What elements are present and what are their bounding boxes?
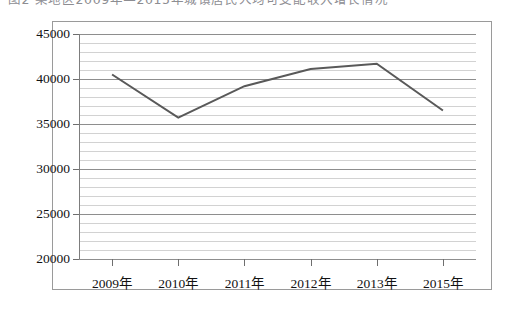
x-axis-label: 2013年 bbox=[357, 272, 397, 292]
figure-caption-text: 图2 某地区2009年—2015年城镇居民人均可支配收入增长情况 bbox=[8, 0, 388, 8]
x-axis-tick bbox=[244, 259, 245, 266]
x-axis-label: 2011年 bbox=[225, 272, 265, 292]
x-axis-tick bbox=[377, 259, 378, 266]
x-axis-tick bbox=[178, 259, 179, 266]
cropped-caption-strip: 图2 某地区2009年—2015年城镇居民人均可支配收入增长情况 bbox=[0, 0, 508, 12]
y-axis-label: 45000 bbox=[36, 26, 70, 42]
x-axis-label: 2012年 bbox=[291, 272, 331, 292]
x-axis-label: 2015年 bbox=[423, 272, 463, 292]
x-axis-tick bbox=[112, 259, 113, 266]
y-axis-label: 30000 bbox=[36, 161, 70, 177]
x-axis-label: 2010年 bbox=[158, 272, 198, 292]
y-axis-tick bbox=[73, 259, 79, 260]
gridline-major bbox=[79, 259, 476, 260]
y-axis-label: 20000 bbox=[36, 251, 70, 267]
data-series-line bbox=[112, 64, 443, 118]
x-axis-tick bbox=[443, 259, 444, 266]
y-axis-label: 25000 bbox=[36, 206, 70, 222]
y-axis-label: 35000 bbox=[36, 116, 70, 132]
x-axis-tick bbox=[311, 259, 312, 266]
series-line-chart bbox=[79, 34, 476, 259]
x-axis-label: 2009年 bbox=[92, 272, 132, 292]
y-axis-label: 40000 bbox=[36, 71, 70, 87]
chart-frame: 200002500030000350004000045000 2009年2010… bbox=[52, 21, 492, 290]
plot-area: 200002500030000350004000045000 2009年2010… bbox=[79, 34, 476, 259]
